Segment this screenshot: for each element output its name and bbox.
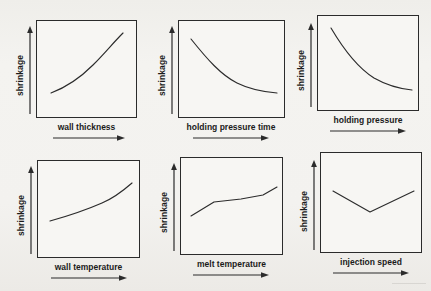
x-axis-label: wall thickness — [36, 122, 137, 132]
panel-melt-temperature: shrinkage melt temperature — [144, 147, 294, 285]
plot-box — [320, 152, 422, 253]
x-axis-arrow — [193, 271, 269, 279]
y-axis-label: shrinkage — [159, 192, 169, 233]
x-axis-arrow — [333, 269, 409, 277]
y-axis-wall-thickness — [24, 26, 36, 116]
plot-box — [37, 160, 140, 258]
curve-wall-temperature — [38, 161, 141, 259]
figure-root: shrinkage wall thickness shrinkage holdi… — [0, 0, 431, 291]
panel-wall-thickness: shrinkage wall thickness — [0, 10, 150, 145]
x-axis-label: holding pressure — [313, 115, 423, 125]
x-axis-label: injection speed — [317, 257, 425, 267]
panel-injection-speed: shrinkage injection speed — [285, 142, 431, 286]
curve-melt-temperature — [181, 158, 284, 256]
y-axis-wall-temperature — [25, 166, 37, 256]
curve-wall-thickness — [37, 21, 138, 119]
x-axis-arrow — [51, 274, 127, 282]
y-axis-holding-pressure — [305, 23, 317, 109]
panel-holding-pressure-time: shrinkage holding pressure time — [144, 10, 294, 145]
plot-box — [317, 15, 419, 111]
plot-box — [180, 157, 283, 255]
x-axis-label: melt temperature — [175, 259, 288, 269]
y-axis-label: shrinkage — [16, 195, 26, 236]
x-axis-arrow — [193, 134, 269, 142]
panel-wall-temperature: shrinkage wall temperature — [0, 150, 150, 285]
x-axis-label: wall temperature — [32, 262, 145, 272]
plot-box — [36, 20, 137, 118]
y-axis-label: shrinkage — [157, 55, 167, 96]
x-axis-arrow — [330, 127, 406, 135]
x-axis-label: holding pressure time — [170, 122, 292, 132]
page-edge-mark — [392, 283, 426, 284]
panel-holding-pressure: shrinkage holding pressure — [285, 5, 431, 145]
y-axis-holding-pressure-time — [166, 26, 178, 116]
y-axis-label: shrinkage — [15, 55, 25, 96]
curve-holding-pressure-time — [179, 21, 286, 119]
curve-holding-pressure — [318, 16, 420, 112]
curve-injection-speed — [321, 153, 423, 254]
y-axis-melt-temperature — [168, 163, 180, 253]
y-axis-label: shrinkage — [299, 191, 309, 232]
plot-box — [178, 20, 285, 118]
y-axis-label: shrinkage — [296, 50, 306, 91]
y-axis-injection-speed — [308, 160, 320, 252]
x-axis-arrow — [53, 134, 125, 142]
